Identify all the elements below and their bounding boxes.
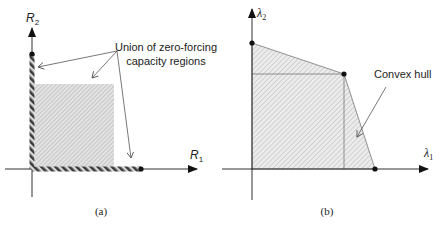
caption-b: (b)	[321, 205, 334, 218]
hatched-segment-vertical	[30, 54, 35, 169]
annotation-a-line1: Union of zero-forcing	[115, 41, 217, 53]
leader-b	[357, 87, 386, 137]
y-axis-label-a: R2	[26, 11, 40, 27]
point-a-right	[138, 166, 143, 171]
point-b-corner	[341, 71, 346, 76]
point-b-right	[372, 166, 377, 171]
convex-hull-region	[252, 43, 375, 169]
point-a-top	[29, 51, 34, 56]
shaded-region-a	[35, 84, 114, 169]
figure: R2 R1 Union of zero-forcing capacity reg…	[0, 0, 442, 226]
panel-a: R2 R1 Union of zero-forcing capacity reg…	[5, 11, 217, 218]
y-axis-label-b: λ2	[256, 6, 266, 22]
annotation-b: Convex hull	[374, 68, 431, 80]
panel-b: λ2 λ1 Convex hull (b)	[222, 6, 433, 218]
caption-a: (a)	[95, 205, 108, 218]
x-axis-label-b: λ1	[423, 146, 433, 162]
point-b-top	[249, 40, 254, 45]
hatched-segment-horizontal	[32, 167, 141, 172]
leader-a-to-vertical	[38, 51, 117, 67]
annotation-a-line2: capacity regions	[126, 55, 206, 67]
leader-a-to-horizontal	[117, 51, 131, 158]
x-axis-label-a: R1	[190, 148, 204, 164]
